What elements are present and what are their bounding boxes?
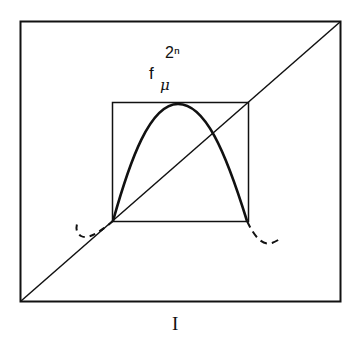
function-label-base: f xyxy=(149,64,154,84)
interval-label: I xyxy=(172,313,178,335)
renormalization-diagram xyxy=(0,0,361,345)
dashed-tail-right xyxy=(247,221,282,244)
identity-diagonal xyxy=(21,22,340,301)
function-label-subscript: μ xyxy=(160,76,170,94)
dashed-tail-left xyxy=(76,221,113,237)
function-label-superscript: 2ⁿ xyxy=(165,44,180,62)
